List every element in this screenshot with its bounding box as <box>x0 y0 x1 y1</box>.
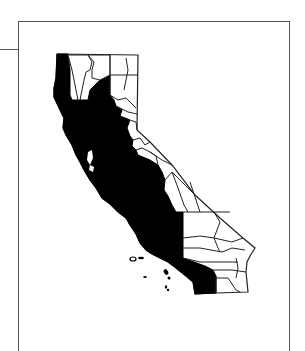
channel-islands <box>130 257 171 291</box>
